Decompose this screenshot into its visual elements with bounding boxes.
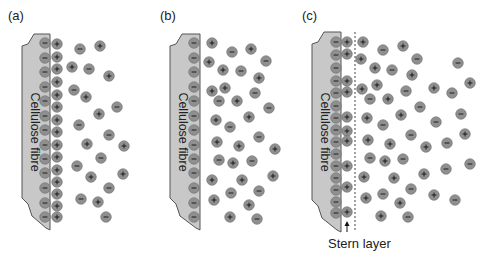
free-anion-icon: [401, 86, 412, 97]
free-cation-icon: [118, 169, 129, 180]
free-anion-icon: [75, 44, 86, 55]
counter-ion-positive-icon: [52, 165, 63, 176]
counter-ion-positive-icon: [52, 90, 63, 101]
free-cation-icon: [237, 175, 248, 186]
free-cation-icon: [389, 173, 400, 184]
free-cation-icon: [395, 198, 406, 209]
counter-ion-positive-icon: [52, 201, 63, 212]
free-cation-icon: [254, 73, 265, 84]
counter-ion-positive-icon: [342, 207, 353, 218]
surface-negative-charge-icon: [331, 101, 342, 112]
free-cation-icon: [363, 135, 374, 146]
surface-negative-charge-icon: [331, 63, 342, 74]
counter-ion-positive-icon: [52, 127, 63, 138]
free-cation-icon: [396, 110, 407, 121]
free-cation-icon: [225, 212, 236, 223]
surface-negative-charge-icon: [40, 125, 51, 136]
free-cation-icon: [95, 41, 106, 52]
free-anion-icon: [465, 159, 476, 170]
free-anion-icon: [447, 88, 458, 99]
surface-negative-charge-icon: [331, 50, 342, 61]
surface-negative-charge-icon: [189, 82, 200, 93]
free-cation-icon: [362, 113, 373, 124]
free-cation-icon: [385, 139, 396, 150]
counter-ion-positive-icon: [52, 189, 63, 200]
free-anion-icon: [378, 45, 389, 56]
free-anion-icon: [236, 66, 247, 77]
surface-negative-charge-icon: [40, 140, 51, 151]
free-anion-icon: [378, 120, 389, 131]
surface-negative-charge-icon: [40, 183, 51, 194]
free-anion-icon: [406, 130, 417, 141]
free-anion-icon: [74, 120, 85, 131]
electric-double-layer-diagram: (a)Cellulose fibre(b)Cellulose fibre(c)C…: [0, 0, 493, 261]
free-anion-icon: [112, 102, 123, 113]
free-cation-icon: [204, 57, 215, 68]
free-cation-icon: [218, 65, 229, 76]
free-anion-icon: [69, 85, 80, 96]
counter-ion-positive-icon: [342, 112, 353, 123]
free-anion-icon: [252, 214, 263, 225]
free-anion-icon: [378, 189, 389, 200]
panel-label: (c): [302, 8, 317, 23]
free-anion-icon: [227, 47, 238, 58]
free-cation-icon: [209, 195, 220, 206]
surface-negative-charge-icon: [331, 208, 342, 219]
free-cation-icon: [407, 70, 418, 81]
free-anion-icon: [226, 188, 237, 199]
free-anion-icon: [254, 132, 265, 143]
free-cation-icon: [357, 84, 368, 95]
free-cation-icon: [211, 115, 222, 126]
free-anion-icon: [254, 186, 265, 197]
free-cation-icon: [398, 41, 409, 52]
surface-negative-charge-icon: [331, 88, 342, 99]
surface-negative-charge-icon: [331, 137, 342, 148]
free-anion-icon: [456, 109, 467, 120]
panel-c: (c)Cellulose fibreStern layer: [302, 8, 475, 251]
free-anion-icon: [214, 155, 225, 166]
free-cation-icon: [232, 96, 243, 107]
free-anion-icon: [365, 94, 376, 105]
surface-negative-charge-icon: [40, 154, 51, 165]
free-cation-icon: [244, 112, 255, 123]
free-anion-icon: [104, 130, 115, 141]
panel-b: (b)Cellulose fibre: [160, 8, 280, 230]
counter-ion-positive-icon: [342, 37, 353, 48]
free-anion-icon: [101, 212, 112, 223]
free-cation-icon: [104, 71, 115, 82]
free-cation-icon: [361, 193, 372, 204]
free-anion-icon: [264, 103, 275, 114]
panel-label: (b): [160, 8, 176, 23]
free-anion-icon: [441, 164, 452, 175]
free-anion-icon: [225, 122, 236, 133]
counter-ion-positive-icon: [52, 152, 63, 163]
surface-negative-charge-icon: [331, 149, 342, 160]
surface-negative-charge-icon: [189, 53, 200, 64]
surface-negative-charge-icon: [331, 197, 342, 208]
counter-ion-positive-icon: [342, 76, 353, 87]
surface-negative-charge-icon: [40, 96, 51, 107]
surface-negative-charge-icon: [40, 198, 51, 209]
free-anion-icon: [387, 65, 398, 76]
free-anion-icon: [415, 102, 426, 113]
counter-ion-positive-icon: [52, 212, 63, 223]
surface-negative-charge-icon: [189, 38, 200, 49]
free-anion-icon: [72, 161, 83, 172]
free-cation-icon: [268, 171, 279, 182]
surface-negative-charge-icon: [331, 76, 342, 87]
panel-a: (a)Cellulose fibre: [8, 8, 129, 230]
free-anion-icon: [247, 156, 258, 167]
free-cation-icon: [376, 211, 387, 222]
free-cation-icon: [465, 78, 476, 89]
free-cation-icon: [429, 190, 440, 201]
surface-negative-charge-icon: [40, 82, 51, 93]
surface-negative-charge-icon: [331, 113, 342, 124]
surface-negative-charge-icon: [331, 125, 342, 136]
free-cation-icon: [270, 144, 281, 155]
surface-negative-charge-icon: [331, 173, 342, 184]
free-cation-icon: [82, 139, 93, 150]
surface-negative-charge-icon: [189, 212, 200, 223]
surface-negative-charge-icon: [189, 183, 200, 194]
counter-ion-positive-icon: [52, 115, 63, 126]
free-cation-icon: [86, 172, 97, 183]
